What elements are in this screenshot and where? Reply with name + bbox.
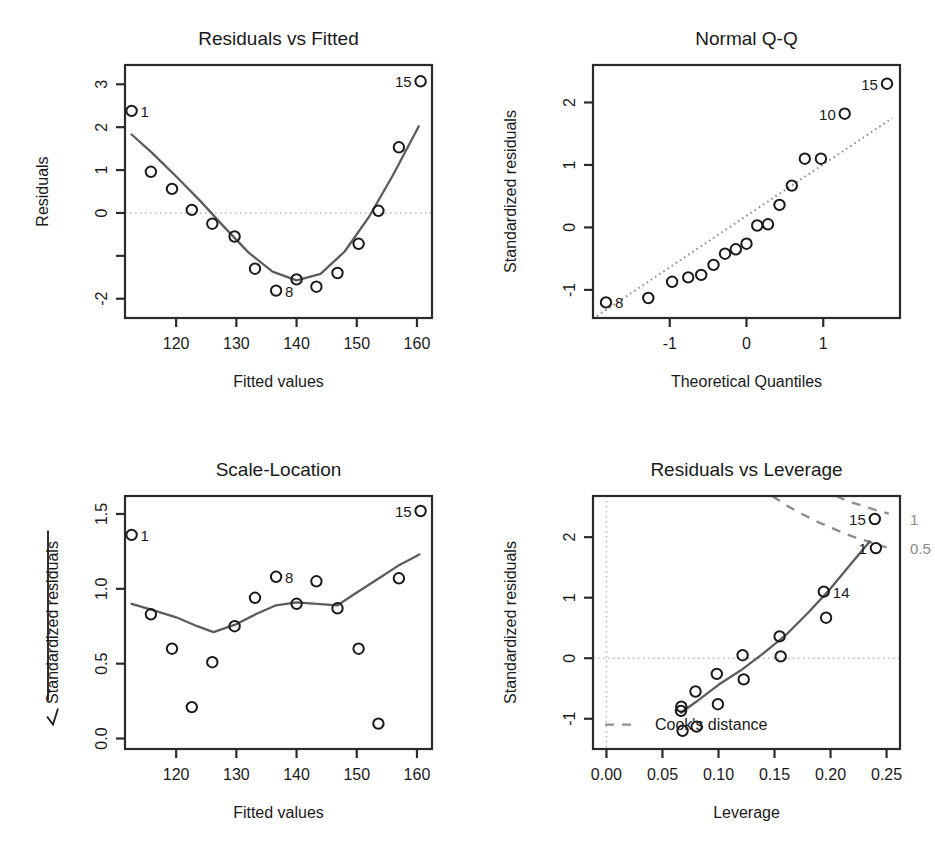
point-label-15: 15 [395,73,412,90]
y-tick-label: -2 [93,291,110,305]
data-points [126,506,425,729]
x-tick-label: 120 [163,766,190,783]
y-tick-label: 1.0 [93,578,110,600]
point-label-1: 1 [141,527,149,544]
y-tick-label: 0 [561,654,578,663]
x-tick-label: 140 [283,335,310,352]
data-point [871,543,881,553]
data-point [353,644,363,654]
point-label-8: 8 [285,569,293,586]
cooks-level-label: 0.5 [910,540,931,557]
residuals-vs-fitted-svg: Residuals vs Fitted120130140150160-20123… [0,0,467,430]
plot-box [593,496,900,749]
data-point [683,272,693,282]
y-axis-label: Residuals [34,156,51,226]
panel-title: Normal Q-Q [695,28,797,49]
x-tick-label: 130 [223,335,250,352]
data-point [763,219,773,229]
data-point [712,669,722,679]
panel-title: Residuals vs Leverage [650,459,842,480]
data-point [415,76,425,86]
point-label-15: 15 [849,511,866,528]
data-point [696,270,706,280]
panel-normal-qq: Normal Q-Q-101-1012Theoretical Quantiles… [468,0,935,430]
plot-box [125,496,432,749]
plot-box [593,65,900,318]
normal-qq-svg: Normal Q-Q-101-1012Theoretical Quantiles… [468,0,935,430]
data-point [146,167,156,177]
y-tick-label: 2 [93,123,110,132]
data-point [250,264,260,274]
x-tick-label: 0.00 [591,766,622,783]
x-axis-label: Leverage [713,804,780,821]
data-point [713,699,723,709]
data-point [271,572,281,582]
point-label-15: 15 [395,503,412,520]
x-tick-label: 0.05 [647,766,678,783]
y-tick-label: 1 [561,593,578,602]
x-axis-label: Fitted values [233,804,324,821]
y-tick-label: 2 [561,98,578,107]
cooks-level-label: 1 [910,511,918,528]
legend-label: Cook's distance [655,716,768,733]
data-point [776,651,786,661]
data-point [271,285,281,295]
data-point [250,593,260,603]
x-tick-label: 160 [404,335,431,352]
sqrt-hook [47,709,58,725]
y-tick-label: 1 [93,166,110,175]
y-tick-label: -1 [561,712,578,726]
y-tick-label: 0 [561,223,578,232]
data-point [167,184,177,194]
point-label-1: 1 [859,540,867,557]
qq-reference-line [597,118,892,316]
data-point [882,79,892,89]
data-points [601,79,892,308]
x-tick-label: 150 [343,335,370,352]
x-tick-label: 130 [223,766,250,783]
panel-scale-location: Scale-Location1201301401501600.00.51.01.… [0,431,467,861]
y-tick-label: 2 [561,533,578,542]
data-point [353,239,363,249]
y-tick-label: 0 [93,208,110,217]
y-tick-label: 1.5 [93,503,110,525]
data-point [394,573,404,583]
data-point [800,154,810,164]
point-label-1: 1 [141,103,149,120]
data-point [643,293,653,303]
data-point [787,180,797,190]
x-tick-label: 0.20 [815,766,846,783]
y-tick-label: 0.5 [93,652,110,674]
point-label-15: 15 [861,76,878,93]
smoother-line [132,126,419,280]
data-point [311,576,321,586]
y-tick-label: 0.0 [93,727,110,749]
y-axis-label: Standardized residuals [502,541,519,704]
x-tick-label: 0.25 [871,766,902,783]
diagnostic-plot-figure: Residuals vs Fitted120130140150160-20123… [0,0,935,861]
residuals-vs-leverage-svg: Residuals vs Leverage0.000.050.100.150.2… [468,431,935,861]
x-tick-label: 140 [283,766,310,783]
data-point [708,260,718,270]
point-label-8: 8 [285,283,293,300]
data-point [146,609,156,619]
data-point [187,205,197,215]
y-tick-label: 3 [93,80,110,89]
data-point [415,506,425,516]
data-point [731,244,741,254]
x-tick-label: -1 [663,335,677,352]
y-axis-label: Standardized residuals [44,541,61,704]
data-point [601,297,611,307]
panel-title: Residuals vs Fitted [198,28,359,49]
data-point [690,686,700,696]
data-points [676,514,881,736]
data-point [752,220,762,230]
data-point [394,142,404,152]
x-axis-label: Theoretical Quantiles [671,373,822,390]
data-point [332,268,342,278]
data-point [741,239,751,249]
x-tick-label: 1 [819,335,828,352]
point-label-8: 8 [615,294,623,311]
smoother-line [132,554,420,632]
data-point [373,718,383,728]
